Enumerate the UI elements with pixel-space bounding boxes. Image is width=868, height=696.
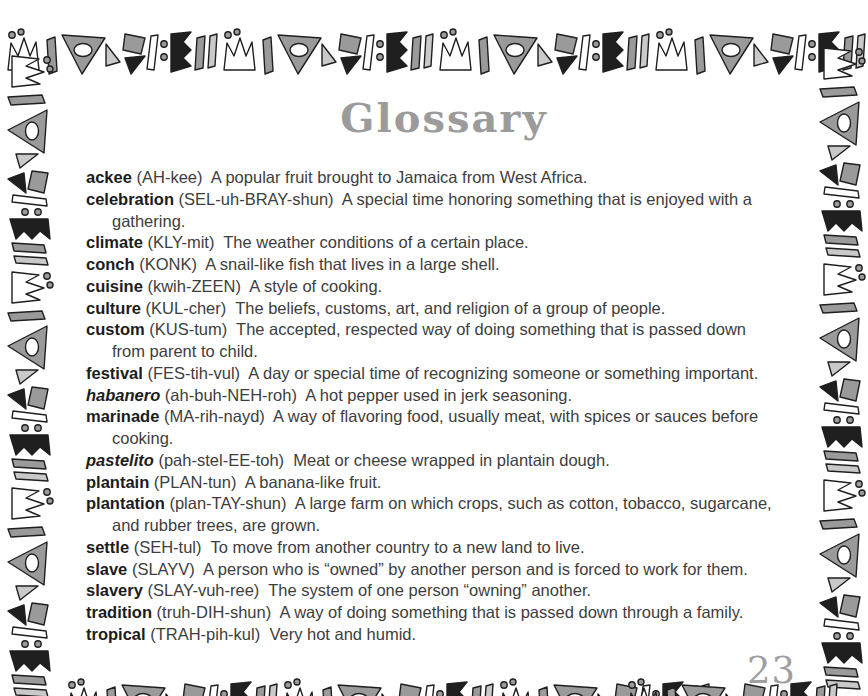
glossary-entry: conch (KONK) A snail-like fish that live… — [86, 254, 802, 276]
glossary-pronunciation: (plan-TAY-shun) — [165, 494, 295, 512]
glossary-term: settle — [86, 538, 129, 556]
glossary-definition: The beliefs, customs, art, and religion … — [235, 299, 665, 317]
glossary-pronunciation: (TRAH-pih-kul) — [146, 625, 270, 643]
glossary-term: cuisine — [86, 277, 143, 295]
glossary-list: ackee (AH-kee) A popular fruit brought t… — [86, 167, 802, 646]
glossary-term: custom — [86, 320, 145, 338]
glossary-term: tradition — [86, 603, 152, 621]
glossary-pronunciation: (SLAY-vuh-ree) — [143, 581, 268, 599]
page-content: Glossary ackee (AH-kee) A popular fruit … — [86, 94, 802, 646]
glossary-entry: plantain (PLAN-tun) A banana-like fruit. — [86, 472, 802, 494]
glossary-pronunciation: (SEH-tul) — [129, 538, 210, 556]
glossary-term: marinade — [86, 407, 159, 425]
glossary-definition: A banana-like fruit. — [245, 473, 382, 491]
glossary-definition: To move from another country to a new la… — [210, 538, 584, 556]
glossary-page: Glossary ackee (AH-kee) A popular fruit … — [0, 0, 868, 696]
glossary-term: ackee — [86, 168, 132, 186]
glossary-entry: settle (SEH-tul) To move from another co… — [86, 537, 802, 559]
glossary-pronunciation: (KONK) — [135, 255, 206, 273]
glossary-entry: ackee (AH-kee) A popular fruit brought t… — [86, 167, 802, 189]
glossary-entry: slave (SLAYV) A person who is “owned” by… — [86, 559, 802, 581]
glossary-entry: habanero (ah-buh-NEH-roh) A hot pepper u… — [86, 385, 802, 407]
glossary-term: plantation — [86, 494, 165, 512]
glossary-entry: tradition (truh-DIH-shun) A way of doing… — [86, 602, 802, 624]
glossary-definition: Meat or cheese wrapped in plantain dough… — [293, 451, 609, 469]
glossary-definition: A popular fruit brought to Jamaica from … — [211, 168, 588, 186]
glossary-term: tropical — [86, 625, 146, 643]
glossary-term: conch — [86, 255, 135, 273]
glossary-pronunciation: (SLAYV) — [127, 560, 203, 578]
glossary-entry: pastelito (pah-stel-EE-toh) Meat or chee… — [86, 450, 802, 472]
glossary-entry: festival (FES-tih-vul) A day or special … — [86, 363, 802, 385]
glossary-pronunciation: (kwih-ZEEN) — [143, 277, 249, 295]
glossary-entry: marinade (MA-rih-nayd) A way of flavorin… — [86, 406, 802, 450]
glossary-definition: A way of doing something that is passed … — [279, 603, 743, 621]
glossary-definition: Very hot and humid. — [269, 625, 416, 643]
glossary-definition: A hot pepper used in jerk seasoning. — [305, 386, 572, 404]
glossary-definition: A person who is “owned” by another perso… — [203, 560, 748, 578]
glossary-pronunciation: (KUS-tum) — [145, 320, 236, 338]
glossary-pronunciation: (FES-tih-vul) — [143, 364, 248, 382]
glossary-pronunciation: (AH-kee) — [132, 168, 211, 186]
glossary-definition: The system of one person “owning” anothe… — [268, 581, 591, 599]
glossary-definition: A style of cooking. — [249, 277, 382, 295]
glossary-entry: celebration (SEL-uh-BRAY-shun) A special… — [86, 189, 802, 233]
page-title: Glossary — [86, 94, 802, 142]
glossary-term: plantain — [86, 473, 149, 491]
glossary-entry: slavery (SLAY-vuh-ree) The system of one… — [86, 580, 802, 602]
glossary-pronunciation: (PLAN-tun) — [149, 473, 244, 491]
glossary-pronunciation: (ah-buh-NEH-roh) — [160, 386, 305, 404]
glossary-entry: culture (KUL-cher) The beliefs, customs,… — [86, 298, 802, 320]
glossary-pronunciation: (truh-DIH-shun) — [152, 603, 279, 621]
glossary-entry: plantation (plan-TAY-shun) A large farm … — [86, 493, 802, 537]
glossary-entry: climate (KLY-mit) The weather conditions… — [86, 232, 802, 254]
glossary-term: climate — [86, 233, 143, 251]
page-number: 23 — [747, 649, 796, 692]
glossary-pronunciation: (pah-stel-EE-toh) — [154, 451, 293, 469]
glossary-term: celebration — [86, 190, 174, 208]
glossary-definition: A snail-like fish that lives in a large … — [205, 255, 499, 273]
glossary-pronunciation: (KLY-mit) — [143, 233, 223, 251]
glossary-term: culture — [86, 299, 141, 317]
glossary-term: habanero — [86, 386, 160, 404]
glossary-pronunciation: (SEL-uh-BRAY-shun) — [174, 190, 342, 208]
glossary-term: slavery — [86, 581, 143, 599]
glossary-entry: tropical (TRAH-pih-kul) Very hot and hum… — [86, 624, 802, 646]
glossary-entry: cuisine (kwih-ZEEN) A style of cooking. — [86, 276, 802, 298]
glossary-term: slave — [86, 560, 127, 578]
glossary-term: festival — [86, 364, 143, 382]
glossary-definition: The weather conditions of a certain plac… — [223, 233, 528, 251]
glossary-pronunciation: (MA-rih-nayd) — [159, 407, 273, 425]
glossary-definition: A day or special time of recognizing som… — [248, 364, 758, 382]
glossary-entry: custom (KUS-tum) The accepted, respected… — [86, 319, 802, 363]
glossary-pronunciation: (KUL-cher) — [141, 299, 235, 317]
glossary-term: pastelito — [86, 451, 154, 469]
